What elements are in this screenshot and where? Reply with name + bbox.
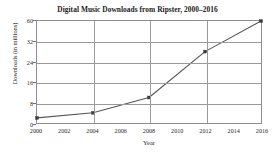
gridline-vertical	[94, 21, 95, 123]
gridline-horizontal	[37, 63, 261, 64]
y-axis-tick-label: 8	[9, 100, 33, 107]
x-axis-tick-label: 2008	[134, 127, 164, 134]
y-axis-tick-label: 32	[9, 37, 33, 44]
y-axis-tick-label: 60	[9, 17, 33, 24]
series-line-chart	[37, 21, 261, 123]
x-axis-tick-label: 2006	[106, 127, 136, 134]
gridline-horizontal	[37, 42, 261, 43]
x-axis-tick-labels: 200020022004200620082010201220142016	[36, 127, 262, 137]
x-axis-tick-label: 2012	[191, 127, 221, 134]
x-axis-tick-label: 2002	[49, 127, 79, 134]
y-axis-tick-labels: 0816243260	[8, 20, 33, 124]
y-axis-tick-label: 16	[9, 79, 33, 86]
chart-figure: Digital Music Downloads from Ripster, 20…	[0, 0, 275, 157]
x-axis-tick-label: 2010	[162, 127, 192, 134]
x-axis-tick-label: 2014	[219, 127, 249, 134]
gridline-horizontal	[37, 104, 261, 105]
plot-area	[36, 20, 262, 124]
gridline-vertical	[150, 21, 151, 123]
data-point-marker	[260, 20, 263, 23]
x-axis-tick-label: 2016	[247, 127, 275, 134]
data-point-marker	[36, 116, 39, 119]
y-axis-tick-mark	[33, 124, 36, 125]
gridline-horizontal	[37, 83, 261, 84]
x-axis-tick-label: 2000	[21, 127, 51, 134]
gridline-vertical	[207, 21, 208, 123]
chart-title: Digital Music Downloads from Ripster, 20…	[0, 5, 275, 14]
y-axis-tick-label: 24	[9, 58, 33, 65]
x-axis-tick-label: 2004	[78, 127, 108, 134]
x-axis-title: Year	[36, 139, 262, 146]
